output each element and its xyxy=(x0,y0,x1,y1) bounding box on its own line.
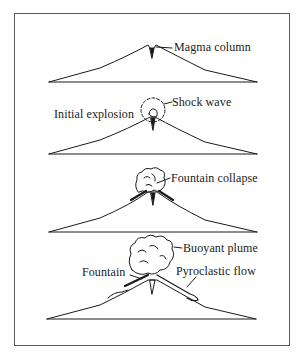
fountain-collapse-cloud-icon xyxy=(136,168,165,193)
fountain-vent-icon xyxy=(150,280,155,294)
label-pyroclastic-flow: Pyroclastic flow xyxy=(176,265,256,278)
buoyant-plume-cloud-icon xyxy=(129,235,173,274)
label-initial-explosion: Initial explosion xyxy=(54,108,134,121)
magma-column-icon xyxy=(151,193,155,205)
magma-column-icon xyxy=(150,48,154,58)
label-buoyant-plume: Buoyant plume xyxy=(183,242,258,255)
pyroclastic-flow-icon xyxy=(108,290,128,298)
explosion-icon xyxy=(149,109,157,117)
magma-column-icon xyxy=(151,118,155,130)
label-magma-column: Magma column xyxy=(174,41,251,54)
label-fountain: Fountain xyxy=(82,266,125,279)
label-fountain-collapse: Fountain collapse xyxy=(171,172,258,185)
volcano-eruption-stages-illustration xyxy=(0,0,304,358)
label-shock-wave: Shock wave xyxy=(172,96,231,109)
